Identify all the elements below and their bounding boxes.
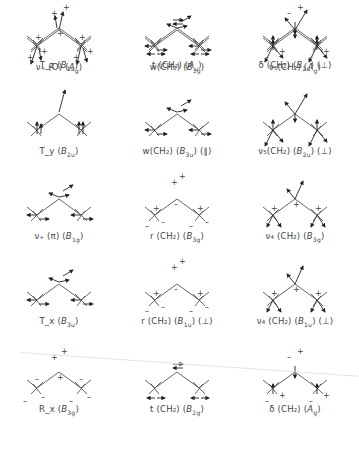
mode-label: T_x (B3u): [0, 316, 118, 328]
mode-label: T_y (B2u): [0, 146, 118, 158]
svg-text:+: +: [153, 204, 160, 213]
mode-label: r (CH₂) (B3g): [118, 231, 236, 243]
mode-coordinate: w(CH₂): [143, 146, 174, 156]
mode-coordinate: r (CH₂): [141, 316, 171, 326]
mode-label: δ (CH₂) (Ag): [236, 404, 354, 416]
mode-label: T_z (B1u): [0, 60, 118, 72]
mode-cell: +++ν₄ (CH₂) (B3g): [236, 171, 354, 257]
svg-text:–: –: [174, 200, 178, 209]
svg-text:–: –: [287, 353, 291, 362]
svg-text:–: –: [287, 9, 291, 18]
mode-cell: t (CH₂) (B2g): [118, 344, 236, 430]
svg-text:+: +: [35, 33, 42, 42]
mode-coordinate: T_x: [39, 316, 54, 326]
svg-text:–: –: [174, 285, 178, 294]
mode-cell: ν₊ (π) (B1g): [0, 171, 118, 257]
mode-symmetry: (B3u): [173, 146, 197, 156]
mode-label: δ (CH₂) (B2u) (⊥): [236, 60, 354, 72]
mode-symmetry: (B1u): [171, 316, 195, 326]
svg-text:+: +: [179, 257, 186, 266]
mode-symmetry: (B3g): [180, 231, 204, 241]
mode-polarization: (⊥): [314, 146, 332, 156]
mode-polarization: (⊥): [314, 60, 332, 70]
molecule-chain-icon: –+–+–+: [236, 344, 354, 412]
svg-text:+: +: [293, 285, 300, 294]
molecule-chain-icon: +++++++++: [0, 0, 118, 68]
svg-text:+: +: [271, 289, 278, 298]
svg-text:+: +: [315, 204, 322, 213]
molecule-chain-icon: [118, 0, 236, 68]
mode-symmetry: (B2g): [180, 404, 204, 414]
mode-symmetry: (B2u): [290, 60, 314, 70]
mode-cell: t (CH₂) (Au): [118, 0, 236, 86]
molecule-chain-icon: [0, 86, 118, 154]
svg-text:+: +: [153, 289, 160, 298]
svg-text:+: +: [297, 3, 304, 12]
mode-coordinate: ν₊ (π): [35, 231, 60, 241]
mode-label: t (CH₂) (B2g): [118, 404, 236, 416]
svg-text:–: –: [205, 303, 209, 312]
mode-symmetry: (B1g): [59, 231, 83, 241]
mode-coordinate: ν₄ (CH₂): [257, 316, 292, 326]
mode-cell: ++–+––+––r (CH₂) (B1u) (⊥): [118, 256, 236, 342]
svg-text:–: –: [87, 393, 91, 402]
molecule-chain-icon: +++: [236, 256, 354, 324]
mode-label: ν₄ (CH₂) (B1u) (⊥): [236, 316, 354, 328]
mode-label: r (CH₂) (B1u) (⊥): [118, 316, 236, 328]
svg-text:+: +: [279, 47, 286, 56]
mode-coordinate: t (CH₂): [150, 404, 180, 414]
svg-text:–: –: [35, 375, 39, 384]
mode-label: ν₊ (π) (B1g): [0, 231, 118, 243]
molecule-chain-icon: [236, 86, 354, 154]
mode-cell: T_y (B2u): [0, 86, 118, 172]
mode-polarization: (∥): [197, 146, 211, 156]
molecule-chain-icon: ++–+––+––: [118, 171, 236, 239]
svg-text:+: +: [179, 172, 186, 181]
molecule-chain-icon: [0, 171, 118, 239]
svg-text:+: +: [41, 47, 48, 56]
mode-symmetry: (B1u): [54, 60, 78, 70]
molecule-chain-icon: –+–+–+: [236, 0, 354, 68]
mode-coordinate: T_z: [40, 60, 55, 70]
mode-polarization: (⊥): [195, 316, 213, 326]
mode-label: w(CH₂) (B3u) (∥): [118, 146, 236, 158]
mode-symmetry: (Ag): [301, 404, 321, 414]
svg-text:+: +: [297, 347, 304, 356]
svg-text:–: –: [79, 375, 83, 384]
molecule-chain-icon: [118, 344, 236, 412]
mode-symmetry: (B2u): [55, 146, 79, 156]
svg-text:–: –: [41, 393, 45, 402]
svg-text:+: +: [293, 200, 300, 209]
svg-text:+: +: [197, 289, 204, 298]
mode-polarization: (⊥): [316, 316, 334, 326]
mode-cell: +++ν₄ (CH₂) (B1u) (⊥): [236, 256, 354, 342]
mode-coordinate: R_x: [39, 404, 55, 414]
molecule-chain-icon: ++–+––+––: [118, 256, 236, 324]
mode-symmetry: (B3g): [55, 404, 79, 414]
svg-text:+: +: [57, 29, 64, 38]
svg-text:–: –: [205, 218, 209, 227]
svg-text:+: +: [323, 391, 330, 400]
mode-cell: w(CH₂) (B3u) (∥): [118, 86, 236, 172]
svg-text:–: –: [189, 307, 193, 316]
mode-cell: –+–+–+δ (CH₂) (B2u) (⊥): [236, 0, 354, 86]
svg-text:+: +: [279, 391, 286, 400]
svg-text:–: –: [145, 222, 149, 231]
mode-label: R_x (B3g): [0, 404, 118, 416]
molecule-chain-icon: [118, 86, 236, 154]
mode-symmetry: (Au): [182, 60, 202, 70]
svg-text:–: –: [161, 303, 165, 312]
svg-text:+: +: [57, 373, 64, 382]
mode-symmetry: (B3u): [55, 316, 79, 326]
mode-symmetry: (B3g): [300, 231, 324, 241]
mode-label: ν₄ (CH₂) (B3g): [236, 231, 354, 243]
mode-symmetry: (B1u): [292, 316, 316, 326]
mode-coordinate: t (CH₂): [152, 60, 182, 70]
svg-text:+: +: [63, 3, 70, 12]
mode-coordinate: δ (CH₂): [258, 60, 290, 70]
mode-cell: ++–+––+––r (CH₂) (B3g): [118, 171, 236, 257]
svg-text:+: +: [79, 33, 86, 42]
mode-cell: –+–+–+δ (CH₂) (Ag): [236, 344, 354, 430]
mode-symmetry: (B2u): [290, 146, 314, 156]
